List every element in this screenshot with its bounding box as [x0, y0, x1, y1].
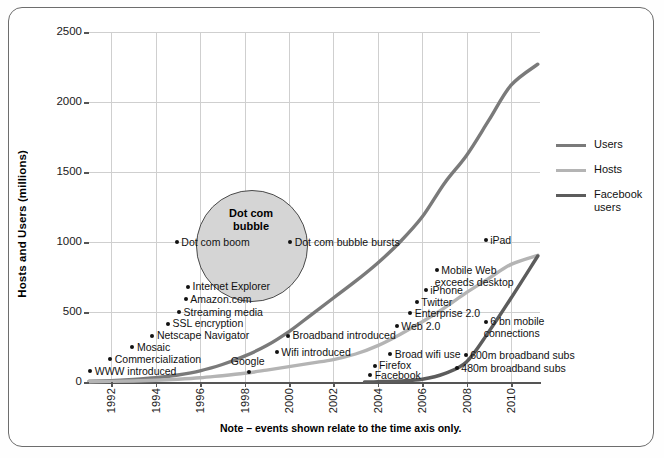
- event-dot: [186, 285, 190, 289]
- x-tick-mark: [289, 382, 291, 387]
- event-dot: [464, 353, 468, 357]
- x-tick-mark: [378, 382, 380, 387]
- event-label: SSL encryption: [172, 317, 243, 329]
- event-label: 6 bn mobile connections: [484, 315, 545, 339]
- event-label: Internet Explorer: [192, 280, 270, 292]
- event-dot: [150, 334, 154, 338]
- event-annotation: Mosaic: [130, 342, 170, 353]
- legend-label: Facebook users: [594, 188, 642, 213]
- event-label: Amazon.com: [190, 293, 251, 305]
- x-tick-mark: [467, 382, 469, 387]
- event-label: Streaming media: [184, 306, 263, 318]
- x-tick-label: 2006: [416, 388, 428, 413]
- legend-item-hosts[interactable]: Hosts: [556, 163, 656, 188]
- event-annotation: Twitter: [415, 297, 452, 308]
- event-annotation: Firefox: [373, 360, 412, 371]
- event-annotation: Dot com boom: [175, 237, 250, 248]
- event-dot: [455, 366, 459, 370]
- y-tick-label: 1000: [36, 236, 82, 247]
- x-tick-label: 1996: [194, 388, 206, 413]
- event-dot: [408, 311, 412, 315]
- event-label: Twitter: [421, 296, 452, 308]
- x-tick-label: 1994: [150, 388, 162, 413]
- event-annotation: Streaming media: [177, 307, 263, 318]
- y-tick-label: 0: [36, 376, 82, 387]
- x-tick-label: 1992: [105, 388, 117, 413]
- event-label: Web 2.0: [401, 320, 440, 332]
- event-annotation: Commercialization: [108, 354, 201, 365]
- x-tick-label: 2002: [327, 388, 339, 413]
- y-tick-label: 1500: [36, 166, 82, 177]
- event-dot: [415, 300, 419, 304]
- event-annotation: 480m broadband subs: [455, 363, 566, 374]
- legend-label: Users: [594, 138, 623, 151]
- legend-swatch: [556, 169, 586, 172]
- event-dot: [373, 364, 377, 368]
- y-axis-label: Hosts and Users (millions): [16, 150, 28, 298]
- event-annotation: Internet Explorer: [186, 281, 270, 292]
- event-annotation: Netscape Navigator: [150, 330, 249, 341]
- event-label: Wifi introduced: [281, 346, 350, 358]
- event-label: WWW introduced: [95, 365, 177, 377]
- legend-item-facebook-users[interactable]: Facebook users: [556, 188, 656, 222]
- x-tick-mark: [333, 382, 335, 387]
- event-dot: [484, 238, 488, 242]
- event-dot: [108, 357, 112, 361]
- event-dot: [388, 352, 392, 356]
- y-tick-mark: [84, 312, 89, 314]
- event-label: Enterprise 2.0: [415, 307, 480, 319]
- x-tick-mark: [156, 382, 158, 387]
- event-label: Broad wifi use: [395, 348, 461, 360]
- event-dot: [288, 240, 292, 244]
- event-label: Mosaic: [137, 341, 170, 353]
- event-dot: [88, 369, 92, 373]
- legend-item-users[interactable]: Users: [556, 138, 656, 163]
- legend: UsersHostsFacebook users: [556, 138, 656, 222]
- x-tick-label: 2004: [372, 388, 384, 413]
- event-label: Firefox: [379, 359, 411, 371]
- y-tick-mark: [84, 102, 89, 104]
- event-annotation: Broadband introduced: [286, 330, 396, 341]
- y-tick-label: 500: [36, 306, 82, 317]
- event-dot: [166, 322, 170, 326]
- event-label: Commercialization: [115, 353, 201, 365]
- chart-page: ▫ ▫ ▫ ▫ ▫ ▫ ▫ ▫ ▫ Hosts and Users (milli…: [0, 0, 664, 458]
- event-label: Mobile Web exceeds desktop: [435, 264, 514, 288]
- event-annotation: Web 2.0: [395, 321, 440, 332]
- event-dot: [424, 288, 428, 292]
- y-tick-label: 2000: [36, 96, 82, 107]
- event-annotation: SSL encryption: [166, 318, 243, 329]
- event-annotation: Enterprise 2.0: [408, 308, 480, 319]
- event-label: iPad: [490, 234, 511, 246]
- x-tick-mark: [422, 382, 424, 387]
- chart-footnote: Note – events shown relate to the time a…: [220, 422, 461, 434]
- y-tick-mark: [84, 382, 89, 384]
- x-tick-mark: [111, 382, 113, 387]
- event-label: 480m broadband subs: [461, 362, 566, 374]
- x-tick-label: 2000: [283, 388, 295, 413]
- dot-com-bubble-label: Dot com bubble: [196, 207, 306, 232]
- x-tick-mark: [245, 382, 247, 387]
- event-annotation: Broad wifi use: [388, 349, 460, 360]
- event-label: 600m broadband subs: [470, 349, 575, 361]
- event-dot: [395, 324, 399, 328]
- event-annotation: 6 bn mobile connections: [484, 316, 545, 339]
- event-dot: [175, 240, 179, 244]
- event-dot: [247, 370, 251, 374]
- event-label: Google: [231, 356, 265, 367]
- event-dot: [368, 373, 372, 377]
- legend-swatch: [556, 144, 586, 147]
- event-annotation: Wifi introduced: [275, 347, 351, 358]
- event-annotation: 600m broadband subs: [464, 350, 575, 361]
- y-tick-mark: [84, 172, 89, 174]
- event-annotation: Facebook: [368, 370, 421, 381]
- x-tick-label: 2010: [505, 388, 517, 413]
- event-annotation: Amazon.com: [184, 294, 252, 305]
- event-label: Dot com bubble bursts: [295, 236, 400, 248]
- legend-label: Hosts: [594, 163, 622, 176]
- x-tick-mark: [511, 382, 513, 387]
- event-dot: [130, 345, 134, 349]
- event-dot: [177, 310, 181, 314]
- x-tick-label: 1998: [239, 388, 251, 413]
- event-label: Dot com boom: [181, 236, 249, 248]
